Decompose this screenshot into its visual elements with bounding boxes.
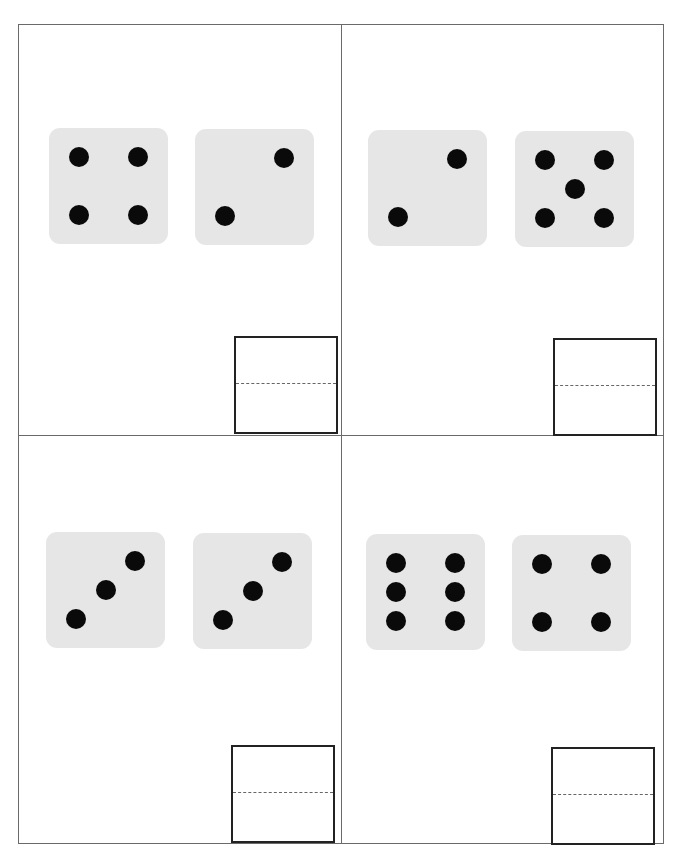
pip-dot-icon <box>128 205 148 225</box>
pip-dot-icon <box>66 609 86 629</box>
die-face-3-icon: 3 <box>193 533 312 649</box>
die-face-3-icon: 3 <box>46 532 165 648</box>
pip-dot-icon <box>565 179 585 199</box>
pip-dot-icon <box>591 612 611 632</box>
vertical-divider <box>341 24 342 844</box>
pip-dot-icon <box>535 208 555 228</box>
pip-dot-icon <box>213 610 233 630</box>
pip-dot-icon <box>445 611 465 631</box>
answer-box[interactable] <box>551 747 655 845</box>
pip-dot-icon <box>532 612 552 632</box>
pip-dot-icon <box>243 581 263 601</box>
pip-dot-icon <box>594 150 614 170</box>
pip-dot-icon <box>386 611 406 631</box>
pip-dot-icon <box>128 147 148 167</box>
pip-dot-icon <box>274 148 294 168</box>
pip-dot-icon <box>447 149 467 169</box>
dashed-guide-line <box>233 792 333 793</box>
pip-dot-icon <box>445 553 465 573</box>
pip-dot-icon <box>69 205 89 225</box>
die-face-6-icon: 6 <box>366 534 485 650</box>
pip-dot-icon <box>388 207 408 227</box>
answer-box[interactable] <box>234 336 338 434</box>
pip-dot-icon <box>532 554 552 574</box>
pip-dot-icon <box>96 580 116 600</box>
die-face-2-icon: 2 <box>368 130 487 246</box>
pip-dot-icon <box>69 147 89 167</box>
pip-dot-icon <box>594 208 614 228</box>
answer-box[interactable] <box>231 745 335 843</box>
pip-dot-icon <box>535 150 555 170</box>
dashed-guide-line <box>553 794 653 795</box>
pip-dot-icon <box>591 554 611 574</box>
dashed-guide-line <box>236 383 336 384</box>
die-face-5-icon: 5 <box>515 131 634 247</box>
pip-dot-icon <box>386 553 406 573</box>
die-face-2-icon: 2 <box>195 129 314 245</box>
pip-dot-icon <box>125 551 145 571</box>
dashed-guide-line <box>555 385 655 386</box>
die-face-4-icon: 4 <box>512 535 631 651</box>
answer-box[interactable] <box>553 338 657 436</box>
pip-dot-icon <box>215 206 235 226</box>
pip-dot-icon <box>272 552 292 572</box>
pip-dot-icon <box>445 582 465 602</box>
die-face-4-icon: 4 <box>49 128 168 244</box>
pip-dot-icon <box>386 582 406 602</box>
